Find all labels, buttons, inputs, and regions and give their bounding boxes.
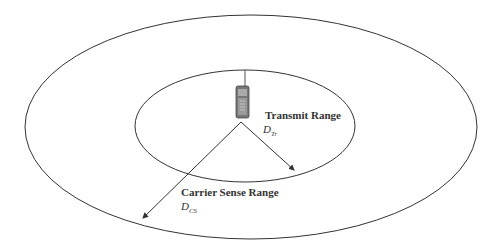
carrier-sense-range-ellipse	[25, 15, 477, 239]
transmit-range-symbol: DTr	[263, 123, 277, 138]
carrier-sense-range-label: Carrier Sense Range	[181, 186, 279, 198]
carrier-sense-range-symbol: DCS	[181, 200, 197, 215]
range-diagram	[0, 0, 483, 245]
transmit-range-label: Transmit Range	[265, 109, 341, 121]
mobile-phone-icon	[236, 70, 249, 118]
